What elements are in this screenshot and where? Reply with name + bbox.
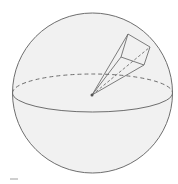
- sphere: [13, 13, 173, 173]
- sphere-diagram: [0, 0, 178, 184]
- center-point: [91, 94, 94, 97]
- caption-fragment: [10, 178, 18, 180]
